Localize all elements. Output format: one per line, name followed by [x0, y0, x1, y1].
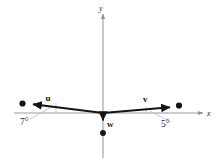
- v-angle-label: 5°: [161, 119, 170, 129]
- vector-diagram-canvas: x y u 7° v 5° w: [0, 0, 221, 161]
- x-axis-label: x: [206, 109, 211, 118]
- vector-diagram-figure: x y u 7° v 5° w: [0, 0, 221, 161]
- u-angle-label: 7°: [20, 117, 29, 127]
- vector-v-label: v: [143, 94, 148, 104]
- vector-v-endpoint-dot: [176, 102, 182, 108]
- y-axis-label: y: [98, 4, 103, 13]
- figure-background: [0, 0, 221, 161]
- vector-w-endpoint-dot: [100, 130, 106, 136]
- vector-u-label: u: [46, 93, 51, 103]
- vector-u-endpoint-dot: [19, 100, 25, 106]
- vector-w-label: w: [107, 119, 114, 129]
